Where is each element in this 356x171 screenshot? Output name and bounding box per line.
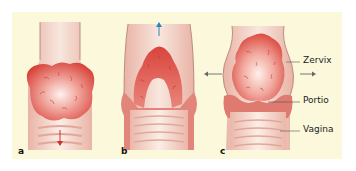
label-portio: Portio: [303, 95, 329, 105]
panel-a: [27, 22, 94, 150]
panel-c: [223, 26, 300, 150]
panel-label-c: c: [220, 146, 225, 156]
cervix-diagram: [0, 0, 356, 171]
arrow-left-icon: [204, 72, 222, 77]
panel-label-a: a: [18, 146, 24, 156]
arrow-right-icon: [300, 72, 316, 77]
label-vagina: Vagina: [303, 124, 333, 134]
label-zervix: Zervix: [303, 55, 332, 65]
panel-label-b: b: [121, 146, 127, 156]
panel-b: [121, 22, 197, 150]
